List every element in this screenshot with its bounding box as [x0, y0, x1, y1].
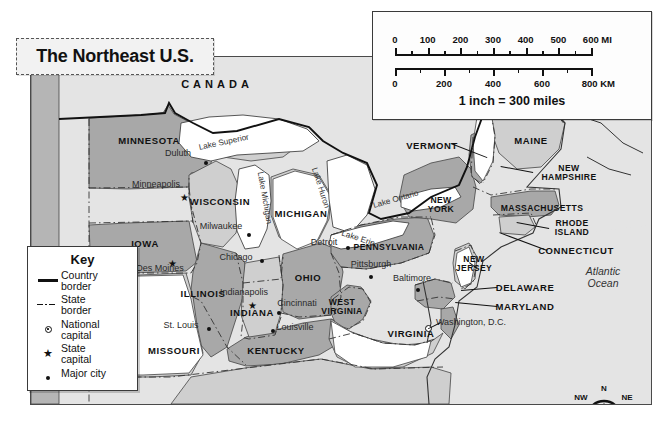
scale-miles-tick-minor [444, 51, 446, 56]
scale-km-tick-label: 0 [392, 78, 397, 89]
key-item-label: National capital [61, 319, 100, 340]
country-border-swatch [38, 279, 58, 281]
scale-miles-tick-major [526, 48, 528, 56]
scale-km-tick-minor [518, 68, 520, 73]
scale-miles-tick-minor [411, 51, 413, 56]
marker-major-city [260, 259, 264, 263]
country-border-line-icon [35, 270, 61, 287]
key-item-label: Major city [61, 368, 106, 379]
key-title: Key [28, 252, 137, 267]
scale-km-tick-major [444, 68, 446, 76]
marker-major-city [247, 233, 251, 237]
scale-miles-tick-major [460, 48, 462, 56]
scale-miles-tick-label: 100 [420, 34, 436, 45]
marker-major-city [207, 327, 211, 331]
map-screenshot: CANADAAtlantic OceanMINNESOTAWISCONSINMI… [0, 0, 658, 431]
marker-state-capital: ★ [168, 260, 177, 268]
national-capital-marker-icon [35, 319, 61, 336]
scale-miles-tick-label: 600 MI [583, 34, 612, 45]
scale-miles-tick-label: 200 [452, 34, 468, 45]
marker-major-city [271, 329, 275, 333]
scale-km-tick-label: 200 [436, 78, 452, 89]
scale-miles-tick-major [558, 48, 560, 56]
scale-km-tick-label: 600 [534, 78, 550, 89]
scale-miles-tick-minor [477, 51, 479, 56]
compass-direction-n: N [601, 384, 607, 393]
key-item-4: Major city [35, 368, 137, 385]
scale-km-tick-major [493, 68, 495, 76]
compass-direction-nw: NW [574, 393, 587, 402]
state-capital-swatch: ★ [43, 349, 53, 358]
key-item-1: State border [35, 294, 137, 315]
scale-miles-tick-major [591, 48, 593, 56]
scale-miles-tick-minor [542, 51, 544, 56]
marker-major-city [277, 311, 281, 315]
scale-km-tick-minor [420, 68, 422, 73]
scale-miles-tick-minor [575, 51, 577, 56]
marker-major-city [346, 246, 350, 250]
state-border-swatch [37, 301, 59, 309]
marker-state-capital: ★ [248, 302, 257, 310]
map-key-box: Key Country borderState borderNational c… [27, 246, 138, 391]
compass-direction-ne: NE [621, 393, 632, 402]
compass-rose: NNEESESSWWNW [571, 385, 637, 405]
page-title: The Northeast U.S. [36, 46, 193, 67]
key-item-label: Country border [61, 270, 98, 291]
major-city-dot-icon [35, 368, 61, 385]
marker-major-city [204, 161, 208, 165]
marker-major-city [416, 288, 420, 292]
scale-miles-tick-label: 400 [518, 34, 534, 45]
scale-equivalence: 1 inch = 300 miles [373, 94, 651, 108]
scale-km-tick-minor [469, 68, 471, 73]
scale-km-tick-label: 800 KM [582, 78, 615, 89]
major-city-swatch [46, 376, 50, 380]
scale-miles-tick-label: 500 [550, 34, 566, 45]
scale-km-tick-major [591, 68, 593, 76]
key-item-0: Country border [35, 270, 137, 291]
key-item-label: State border [61, 294, 91, 315]
map-title-box: The Northeast U.S. [16, 38, 214, 75]
scale-bar-box: 1 inch = 300 miles 0100200300400500600 M… [372, 11, 652, 120]
scale-miles-tick-major [428, 48, 430, 56]
scale-km-tick-major [395, 68, 397, 76]
scale-km-tick-major [542, 68, 544, 76]
scale-miles-tick-major [395, 48, 397, 56]
key-item-list: Country borderState borderNational capit… [28, 270, 137, 385]
state-capital-star-icon: ★ [35, 343, 61, 360]
scale-miles-tick-label: 0 [392, 34, 397, 45]
key-item-2: National capital [35, 319, 137, 340]
national-capital-swatch [45, 326, 52, 333]
key-item-3: ★State capital [35, 343, 137, 364]
key-item-label: State capital [61, 343, 91, 364]
scale-km-tick-minor [567, 68, 569, 73]
scale-miles-tick-major [493, 48, 495, 56]
state-border-dashdot-icon [35, 294, 61, 311]
scale-miles-tick-label: 300 [485, 34, 501, 45]
scale-km-tick-label: 400 [485, 78, 501, 89]
scale-miles-tick-minor [509, 51, 511, 56]
marker-state-capital: ★ [180, 194, 189, 202]
marker-major-city [369, 275, 373, 279]
